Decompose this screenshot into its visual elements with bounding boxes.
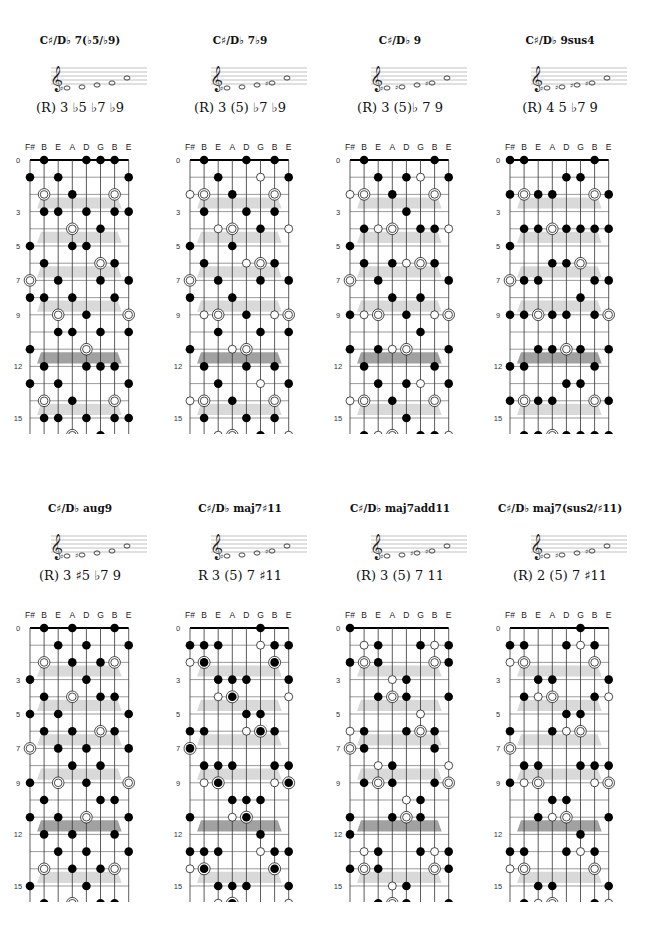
note-dot [82,362,91,371]
position-band [517,301,602,312]
note-dot [110,624,119,633]
fretboard: F#BEADGBE03579121517 [0,124,160,434]
note-dot [40,293,49,302]
fret-number: 12 [14,362,22,371]
position-band [37,665,122,676]
position-band [517,197,602,208]
note-dot [374,276,383,285]
string-label: A [69,142,75,152]
fret-number: 5 [176,242,180,251]
string-label: E [55,610,61,620]
note-dot [548,345,557,354]
position-band [197,404,282,415]
note-dot [256,796,265,805]
note-dot [26,813,35,822]
note-dot [26,882,35,891]
note-dot [256,328,265,337]
note-dot [40,207,49,216]
string-label: B [432,142,438,152]
note-dot [360,779,369,788]
position-band [357,197,442,208]
note-dot [520,311,529,320]
note-dot [430,779,439,788]
fret-number: 7 [496,276,500,285]
string-label: B [201,142,207,152]
optional-note-circle [605,693,613,701]
note-dot [590,276,599,285]
staff-note [269,549,275,553]
optional-note-circle [506,658,514,666]
note-dot [214,761,223,770]
staff-note [544,554,550,558]
string-label: G [257,142,264,152]
note-dot [228,293,237,302]
string-label: E [606,142,612,152]
note-dot [604,813,613,822]
note-dot [256,276,265,285]
string-label: A [69,610,75,620]
note-dot [284,328,293,337]
fret-number: 9 [176,311,180,320]
note-dot [562,431,571,434]
string-label: G [417,610,424,620]
string-label: G [97,610,104,620]
note-dot [444,847,453,856]
note-dot [242,207,251,216]
optional-note-circle [200,311,208,319]
position-band [517,665,602,676]
fretboard: F#BEADGBE03579121517 [480,592,640,902]
chord-title: C♯/D♭ maj7(sus2/♯11) [480,502,640,514]
music-staff: 𝄞♯♯♯♯ [527,58,627,92]
staff-note [124,76,130,80]
fret-number: 0 [496,156,500,165]
staff-note [574,551,580,555]
fret-number: 3 [496,208,500,217]
note-dot [604,882,613,891]
staff-note [384,554,390,558]
note-dot [416,796,425,805]
note-dot [68,830,77,839]
string-label: E [286,610,292,620]
fret-number: 5 [336,710,340,719]
position-band [517,769,602,780]
optional-note-circle [534,693,542,701]
note-dot [228,761,237,770]
string-label: F# [505,610,515,620]
note-dot [26,675,35,684]
string-label: E [215,142,221,152]
optional-note-circle [388,676,396,684]
music-staff: 𝄞♯♯♯ [367,58,467,92]
position-band [37,769,122,780]
note-dot [54,847,63,856]
note-dot [604,225,613,234]
note-dot [68,624,77,633]
note-dot [548,675,557,684]
note-dot [242,414,251,423]
note-dot [416,813,425,822]
note-dot [228,796,237,805]
note-dot [242,796,251,805]
sharp-icon: ♯ [540,553,543,560]
note-dot [54,710,63,719]
staff-note [79,85,85,89]
staff-note [224,554,230,558]
fret-number: 5 [16,710,20,719]
note-dot [416,847,425,856]
chord-diagram: C♯/D♭ 9𝄞♯♯♯(R) 3 (5)♭ 7 9F#BEADGBE035791… [320,34,480,464]
note-dot [124,276,133,285]
note-dot [444,379,453,388]
fret-number: 9 [336,779,340,788]
note-dot [96,156,105,165]
note-dot [590,641,599,650]
note-dot [26,293,35,302]
optional-note-circle [285,431,293,434]
optional-note-circle [445,225,453,233]
position-band [197,352,282,363]
fret-number: 3 [496,676,500,685]
note-dot [416,431,425,434]
note-dot [82,311,91,320]
optional-note-circle [605,899,613,902]
optional-note-circle [214,899,222,902]
note-dot [68,761,77,770]
string-label: B [272,610,278,620]
